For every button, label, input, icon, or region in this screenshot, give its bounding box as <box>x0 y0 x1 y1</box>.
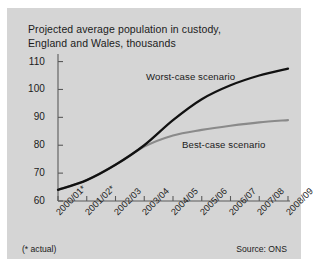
y-axis-ticks <box>58 62 63 201</box>
y-tick-label: 90 <box>19 111 45 122</box>
x-axis-labels: 2000/01*2001/02*2002/032003/042004/05200… <box>52 205 290 249</box>
series-label-best-case: Best-case scenario <box>182 139 265 150</box>
source-credit: Source: ONS <box>236 244 287 254</box>
series-line-best-case <box>58 120 288 190</box>
y-tick-label: 110 <box>19 56 45 67</box>
series-label-worst-case: Worst-case scenario <box>146 71 235 82</box>
series-line-worst-case <box>58 69 288 190</box>
chart-panel: Projected average population in custody,… <box>7 8 301 259</box>
chart-title-line-1: Projected average population in custody, <box>28 22 288 36</box>
chart-title-line-2: England and Wales, thousands <box>28 36 288 50</box>
y-tick-label: 70 <box>19 167 45 178</box>
y-tick-label: 80 <box>19 139 45 150</box>
y-tick-label: 60 <box>19 195 45 206</box>
chart-title: Projected average population in custody,… <box>28 22 288 50</box>
y-tick-label: 100 <box>19 83 45 94</box>
footnote: (* actual) <box>22 244 56 254</box>
